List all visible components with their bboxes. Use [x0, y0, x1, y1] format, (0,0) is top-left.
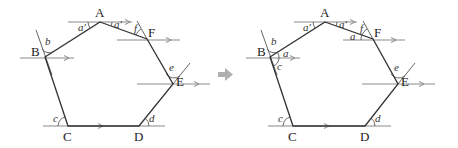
angle-a-prime-A: a′ [303, 21, 312, 33]
right-arrow-icon [218, 68, 233, 81]
angle-b: b [271, 35, 277, 47]
vertex-F: F [148, 25, 155, 40]
right-diagram: A F E D C B a′ a′ f a b a c e c d [246, 5, 435, 144]
angle-c-B: c [277, 60, 282, 72]
angle-d: d [375, 112, 381, 124]
vertex-F: F [374, 25, 381, 40]
angle-e: e [394, 61, 399, 73]
hexagon-angle-diagram: A F E D C B a′ a′ f b e c d [0, 0, 458, 148]
vertex-D: D [360, 129, 369, 144]
vertex-B: B [257, 44, 266, 59]
angle-b: b [45, 35, 51, 47]
vertex-D: D [134, 129, 143, 144]
left-diagram: A F E D C B a′ a′ f b e c d [20, 5, 210, 144]
angle-c: c [53, 112, 58, 124]
angle-e: e [169, 61, 174, 73]
vertex-C: C [288, 129, 297, 144]
angle-c: c [278, 112, 283, 124]
vertex-B: B [31, 44, 40, 59]
vertex-C: C [63, 129, 72, 144]
vertex-A: A [320, 5, 330, 20]
angle-a-prime-A: a′ [78, 21, 87, 33]
angle-a-B: a [283, 47, 289, 59]
angle-a-F: a [350, 30, 356, 42]
vertex-E: E [176, 74, 184, 89]
vertex-E: E [401, 74, 409, 89]
angle-d: d [149, 112, 155, 124]
vertex-A: A [95, 5, 105, 20]
angle-a-prime-AF: a′ [114, 18, 123, 30]
angle-a-prime-AF: a′ [339, 18, 348, 30]
